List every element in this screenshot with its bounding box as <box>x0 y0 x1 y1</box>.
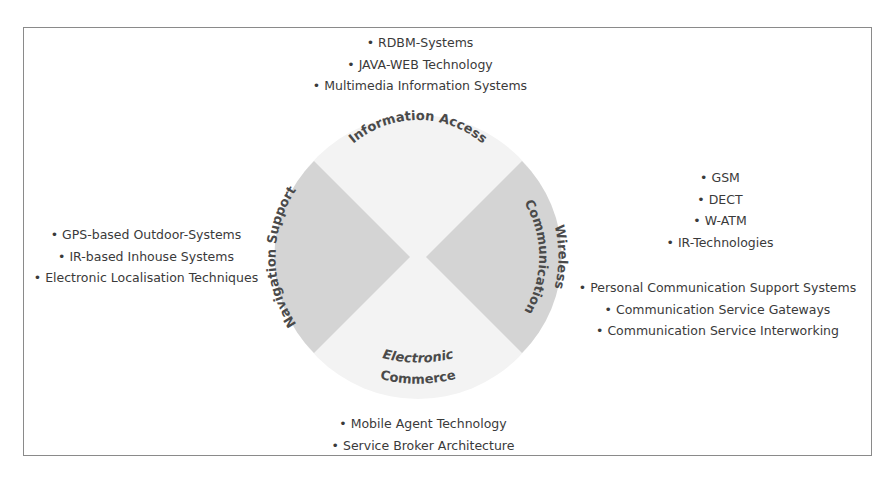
list-item: Personal Communication Support Systems <box>565 277 870 299</box>
list-item: IR-based Inhouse Systems <box>26 246 266 268</box>
communication-services-list: Personal Communication Support Systems C… <box>565 277 870 342</box>
list-item: GPS-based Outdoor-Systems <box>26 224 266 246</box>
list-item: Communication Service Interworking <box>565 320 870 342</box>
list-item: RDBM-Systems <box>270 32 570 54</box>
list-item: JAVA-WEB Technology <box>270 54 570 76</box>
navigation-support-list: GPS-based Outdoor-Systems IR-based Inhou… <box>26 224 266 289</box>
list-item: Mobile Agent Technology <box>300 413 546 435</box>
list-item: GSM <box>620 167 820 189</box>
list-item: Electronic Localisation Techniques <box>26 267 266 289</box>
electronic-commerce-list: Mobile Agent Technology Service Broker A… <box>300 413 546 456</box>
list-item: Communication Service Gateways <box>565 299 870 321</box>
list-item: Service Broker Architecture <box>300 435 546 457</box>
list-item: W-ATM <box>620 210 820 232</box>
list-item: DECT <box>620 189 820 211</box>
wireless-technologies-list: GSM DECT W-ATM IR-Technologies <box>620 167 820 253</box>
list-item: Multimedia Information Systems <box>270 75 570 97</box>
list-item: IR-Technologies <box>620 232 820 254</box>
information-access-list: RDBM-Systems JAVA-WEB Technology Multime… <box>270 32 570 97</box>
